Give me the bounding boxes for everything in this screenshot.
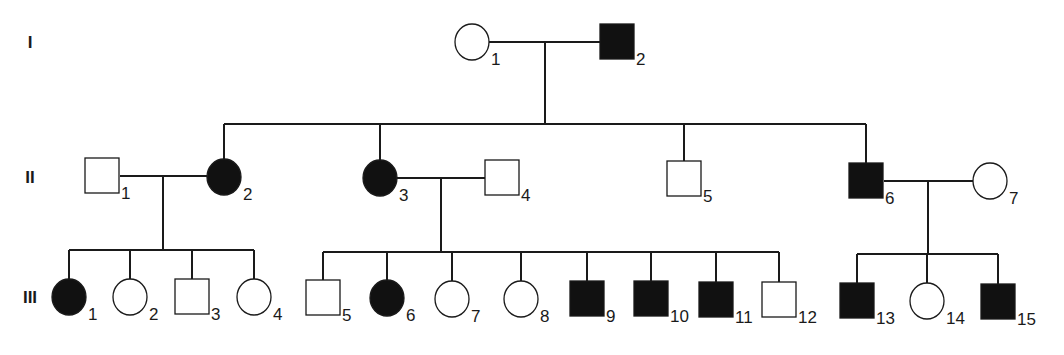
generation-labels: IIIIII bbox=[23, 33, 37, 307]
individual-II-7-unaffected-female: 7 bbox=[973, 163, 1018, 208]
individual-II-5-unaffected-male: 5 bbox=[667, 161, 712, 206]
individual-I-2-affected-male: 2 bbox=[600, 24, 645, 69]
individual-number: 1 bbox=[88, 305, 97, 324]
affected-male-square-icon bbox=[840, 283, 874, 318]
individual-III-4-unaffected-female: 4 bbox=[237, 279, 282, 324]
individual-number: 1 bbox=[491, 50, 500, 69]
individual-number: 6 bbox=[885, 189, 894, 208]
individual-II-1-unaffected-male: 1 bbox=[85, 158, 130, 203]
male-square-icon bbox=[306, 280, 340, 315]
individual-III-11-affected-male: 11 bbox=[699, 282, 753, 327]
individual-number: 4 bbox=[521, 186, 530, 205]
individual-number: 11 bbox=[735, 308, 753, 327]
male-square-icon bbox=[85, 158, 119, 193]
individual-III-3-unaffected-male: 3 bbox=[175, 279, 220, 324]
affected-female-circle-icon bbox=[363, 160, 397, 196]
generation-label: I bbox=[28, 33, 33, 52]
individual-III-15-affected-male: 15 bbox=[981, 284, 1036, 329]
individual-number: 14 bbox=[946, 309, 965, 328]
female-circle-icon bbox=[237, 279, 271, 315]
individual-number: 3 bbox=[399, 186, 408, 205]
individual-number: 12 bbox=[798, 308, 817, 327]
individual-number: 2 bbox=[243, 185, 252, 204]
individual-number: 1 bbox=[121, 184, 130, 203]
male-square-icon bbox=[762, 282, 796, 317]
male-square-icon bbox=[667, 161, 701, 196]
female-circle-icon bbox=[910, 283, 944, 319]
affected-male-square-icon bbox=[634, 281, 668, 316]
affected-female-circle-icon bbox=[52, 279, 86, 315]
individual-number: 2 bbox=[149, 305, 158, 324]
individual-III-14-unaffected-female: 14 bbox=[910, 283, 965, 328]
female-circle-icon bbox=[973, 163, 1007, 199]
male-square-icon bbox=[485, 160, 519, 195]
affected-male-square-icon bbox=[981, 284, 1015, 319]
affected-male-square-icon bbox=[600, 24, 634, 59]
affected-female-circle-icon bbox=[370, 280, 404, 316]
generation-label: II bbox=[25, 168, 34, 187]
individual-I-1-unaffected-female: 1 bbox=[455, 24, 500, 69]
individual-II-4-unaffected-male: 4 bbox=[485, 160, 530, 205]
individual-number: 2 bbox=[636, 50, 645, 69]
individual-number: 9 bbox=[606, 307, 615, 326]
individual-number: 13 bbox=[876, 309, 895, 328]
individual-number: 7 bbox=[471, 307, 480, 326]
affected-male-square-icon bbox=[570, 281, 604, 316]
individual-III-6-affected-female: 6 bbox=[370, 280, 415, 325]
individual-number: 3 bbox=[211, 305, 220, 324]
female-circle-icon bbox=[455, 24, 489, 60]
individual-II-6-affected-male: 6 bbox=[849, 163, 894, 208]
male-square-icon bbox=[175, 279, 209, 314]
individual-number: 6 bbox=[406, 306, 415, 325]
individual-number: 8 bbox=[540, 307, 549, 326]
individual-III-13-affected-male: 13 bbox=[840, 283, 895, 328]
female-circle-icon bbox=[504, 281, 538, 317]
individual-number: 5 bbox=[342, 306, 351, 325]
individual-III-5-unaffected-male: 5 bbox=[306, 280, 351, 325]
individual-III-9-affected-male: 9 bbox=[570, 281, 615, 326]
pedigree-chart: IIIIII 121234567123456789101112131415 bbox=[0, 0, 1064, 355]
individual-II-2-affected-female: 2 bbox=[207, 159, 252, 204]
individual-III-2-unaffected-female: 2 bbox=[113, 279, 158, 324]
individual-III-10-affected-male: 10 bbox=[634, 281, 689, 326]
individual-III-12-unaffected-male: 12 bbox=[762, 282, 817, 327]
individual-III-1-affected-female: 1 bbox=[52, 279, 97, 324]
individual-number: 10 bbox=[670, 307, 689, 326]
female-circle-icon bbox=[113, 279, 147, 315]
affected-male-square-icon bbox=[849, 163, 883, 198]
individual-III-7-unaffected-female: 7 bbox=[435, 281, 480, 326]
individual-number: 15 bbox=[1017, 310, 1036, 329]
individual-number: 7 bbox=[1009, 189, 1018, 208]
individual-III-8-unaffected-female: 8 bbox=[504, 281, 549, 326]
affected-male-square-icon bbox=[699, 282, 733, 317]
individual-number: 4 bbox=[273, 305, 282, 324]
generation-label: III bbox=[23, 288, 37, 307]
individual-II-3-affected-female: 3 bbox=[363, 160, 408, 205]
affected-female-circle-icon bbox=[207, 159, 241, 195]
individual-number: 5 bbox=[703, 187, 712, 206]
female-circle-icon bbox=[435, 281, 469, 317]
